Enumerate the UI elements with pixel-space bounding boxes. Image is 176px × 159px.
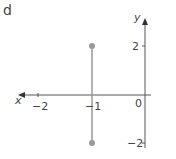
- y-tick-label-2: 2: [132, 40, 139, 53]
- x-tick-label-minus2: −2: [32, 100, 48, 113]
- y-axis-arrow-icon: [142, 18, 148, 25]
- x-tick-label-minus1: −1: [85, 100, 101, 113]
- coordinate-plot: x y −2 −1 0 2 −2: [0, 0, 176, 159]
- endpoint-top: [89, 43, 95, 49]
- x-axis-label: x: [14, 94, 22, 107]
- y-axis-label: y: [133, 11, 141, 24]
- endpoint-bottom: [89, 140, 95, 146]
- y-tick-label-minus2: −2: [127, 137, 143, 150]
- origin-label: 0: [135, 97, 142, 110]
